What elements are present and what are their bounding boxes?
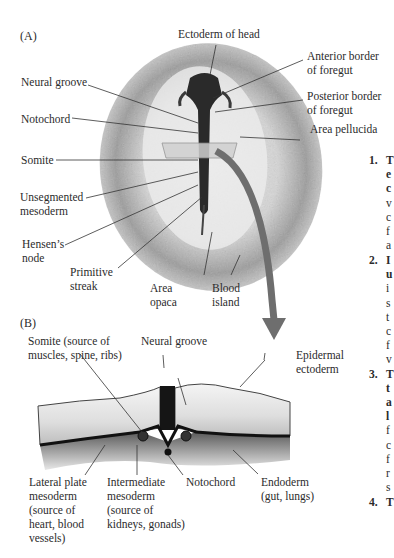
list-text: f	[386, 423, 390, 437]
list-text: T	[386, 367, 394, 381]
list-text: l	[386, 409, 389, 423]
list-number-3: 3.	[369, 367, 378, 381]
list-text: c	[386, 438, 391, 452]
label-line: vessels)	[29, 531, 87, 545]
label-hensens-node: Hensen’s node	[22, 237, 64, 265]
panel-b-title: (B)	[20, 316, 36, 331]
label-line: node	[22, 251, 64, 265]
label-line: Unsegmented	[20, 190, 83, 204]
label-line: ectoderm	[296, 362, 344, 376]
label-line: Lateral plate	[29, 475, 87, 489]
label-anterior-border-foregut: Anterior border of foregut	[307, 49, 379, 77]
label-somite-b: Somite (source of muscles, spine, ribs)	[28, 334, 122, 362]
label-primitive-streak: Primitive streak	[70, 265, 113, 293]
label-posterior-border-foregut: Posterior border of foregut	[307, 89, 381, 117]
list-text: v	[386, 352, 392, 366]
label-notochord-a: Notochord	[21, 112, 70, 126]
label-line: mesoderm	[29, 489, 87, 503]
list-text: s	[386, 480, 390, 494]
label-area-opaca: Area opaca	[150, 281, 177, 309]
label-line: mesoderm	[107, 489, 185, 503]
list-text: f	[386, 338, 390, 352]
label-area-pellucida: Area pellucida	[310, 122, 377, 136]
list-text: T	[386, 495, 394, 509]
label-line: Hensen’s	[22, 237, 64, 251]
label-line: Somite (source of	[28, 334, 122, 348]
label-line: opaca	[150, 295, 177, 309]
list-text: c	[386, 181, 391, 195]
list-text: I	[386, 253, 390, 267]
label-line: Blood	[212, 281, 240, 295]
list-text: c	[386, 210, 391, 224]
label-line: mesoderm	[20, 204, 83, 218]
label-line: of foregut	[307, 103, 381, 117]
label-blood-island: Blood island	[212, 281, 240, 309]
list-text: i	[386, 281, 389, 295]
list-text: u	[386, 267, 392, 281]
list-text: e	[386, 167, 391, 181]
label-line: (source of	[107, 503, 185, 517]
list-number-1: 1.	[369, 153, 378, 167]
label-line: Anterior border	[307, 49, 379, 63]
label-line: kidneys, gonads)	[107, 517, 185, 531]
label-line: heart, blood	[29, 517, 87, 531]
label-lateral-plate-mesoderm: Lateral plate mesoderm (source of heart,…	[29, 475, 87, 545]
list-text: r	[386, 466, 390, 480]
list-text: s	[386, 296, 390, 310]
list-text: f	[386, 224, 390, 238]
label-notochord-b: Notochord	[186, 475, 235, 489]
label-neural-groove-b: Neural groove	[141, 334, 207, 348]
label-line: of foregut	[307, 63, 379, 77]
list-text: a	[386, 238, 391, 252]
label-epidermal-ectoderm: Epidermal ectoderm	[296, 348, 344, 376]
list-text: T	[386, 153, 394, 167]
label-line: (source of	[29, 503, 87, 517]
list-text: a	[386, 395, 392, 409]
label-line: Endoderm	[261, 475, 314, 489]
cross-section	[38, 384, 290, 470]
list-number-2: 2.	[369, 253, 378, 267]
label-line: Epidermal	[296, 348, 344, 362]
label-unsegmented-mesoderm: Unsegmented mesoderm	[20, 190, 83, 218]
list-text: v	[386, 196, 392, 210]
label-line: Area	[150, 281, 177, 295]
label-ectoderm-of-head: Ectoderm of head	[178, 27, 260, 41]
panel-a-title: (A)	[20, 29, 37, 44]
list-text: c	[386, 324, 391, 338]
label-line: streak	[70, 279, 113, 293]
label-endoderm: Endoderm (gut, lungs)	[261, 475, 314, 503]
label-line: muscles, spine, ribs)	[28, 348, 122, 362]
label-line: Posterior border	[307, 89, 381, 103]
label-line: Intermediate	[107, 475, 185, 489]
label-line: (gut, lungs)	[261, 489, 314, 503]
list-text: t	[386, 381, 390, 395]
list-number-4: 4.	[369, 495, 378, 509]
list-text: t	[386, 310, 389, 324]
label-somite-a: Somite	[21, 153, 54, 167]
label-neural-groove-a: Neural groove	[21, 75, 87, 89]
label-intermediate-mesoderm: Intermediate mesoderm (source of kidneys…	[107, 475, 185, 531]
label-line: island	[212, 295, 240, 309]
list-text: f	[386, 452, 390, 466]
label-line: Primitive	[70, 265, 113, 279]
